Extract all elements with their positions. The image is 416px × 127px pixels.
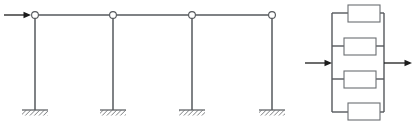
network-left-load-arrow [305, 60, 332, 66]
element-box [348, 5, 380, 22]
diagram-canvas: Multi-bay portal frame with lateral load… [0, 0, 416, 127]
support-hatch-icon [100, 110, 126, 115]
lateral-load-arrow [4, 12, 31, 18]
element-box [344, 38, 376, 55]
arrow-head-icon [325, 60, 333, 66]
network-right-load-arrow [384, 60, 412, 66]
network-element-1 [332, 5, 384, 22]
portal-frame-group [4, 12, 285, 116]
network-element-4 [332, 103, 384, 120]
fixed-support-2 [100, 110, 126, 116]
figure-root: Multi-bay portal frame with lateral load… [0, 0, 416, 127]
element-box [348, 103, 380, 120]
frame-joint-1 [32, 12, 39, 19]
network-element-3 [332, 71, 384, 88]
support-hatch-icon [179, 110, 205, 115]
frame-joint-2 [110, 12, 117, 19]
parallel-network-group [305, 5, 412, 120]
element-box [344, 71, 376, 88]
fixed-support-4 [259, 110, 285, 116]
frame-joint-4 [269, 12, 276, 19]
fixed-support-3 [179, 110, 205, 116]
support-hatch-icon [22, 110, 48, 115]
frame-joint-3 [189, 12, 196, 19]
arrow-head-icon [405, 60, 413, 66]
fixed-support-1 [22, 110, 48, 116]
support-hatch-icon [259, 110, 285, 115]
network-element-2 [332, 38, 384, 55]
arrow-head-icon [24, 12, 32, 18]
